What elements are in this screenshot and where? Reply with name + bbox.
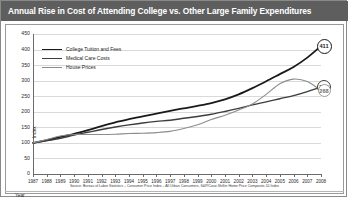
x-tick xyxy=(60,174,61,177)
y-tick-label: 0 xyxy=(27,171,30,176)
y-axis-label: Index xyxy=(32,126,37,138)
y-tick-label: 300 xyxy=(21,78,30,83)
x-tick xyxy=(184,174,185,177)
x-tick xyxy=(321,174,322,177)
x-tick xyxy=(294,174,295,177)
x-tick xyxy=(102,174,103,177)
x-tick xyxy=(156,174,157,177)
x-tick xyxy=(211,174,212,177)
y-tick-label: 50 xyxy=(24,156,30,161)
x-tick xyxy=(74,174,75,177)
legend-label: House Prices xyxy=(66,64,96,70)
legend-label: Medical Care Costs xyxy=(66,55,110,61)
x-tick xyxy=(115,174,116,177)
footer-divider xyxy=(5,191,344,192)
y-axis-ticks: 050100150200250300350400450 xyxy=(8,34,30,174)
x-tick xyxy=(33,174,34,177)
y-tick-label: 200 xyxy=(21,109,30,114)
x-tick xyxy=(252,174,253,177)
y-tick-label: 450 xyxy=(21,31,30,36)
y-tick-label: 250 xyxy=(21,94,30,99)
chart-title-bar: Annual Rise in Cost of Attending College… xyxy=(1,1,348,21)
legend-label: College Tuition and Fees xyxy=(66,46,121,52)
legend-swatch xyxy=(42,67,62,68)
x-tick xyxy=(88,174,89,177)
x-tick xyxy=(266,174,267,177)
x-tick xyxy=(239,174,240,177)
x-tick xyxy=(225,174,226,177)
x-tick xyxy=(129,174,130,177)
legend-swatch xyxy=(42,58,62,59)
x-tick xyxy=(143,174,144,177)
endpoint-value-housing: 268 xyxy=(318,84,331,97)
x-tick xyxy=(47,174,48,177)
x-tick xyxy=(307,174,308,177)
y-tick-label: 400 xyxy=(21,47,30,52)
chart-panel: 050100150200250300350400450 198719881989… xyxy=(5,24,344,194)
x-tick xyxy=(280,174,281,177)
source-note: Source: Bureau of Labor Statistics – Con… xyxy=(1,184,348,188)
y-tick-label: 100 xyxy=(21,140,30,145)
endpoint-value-tuition: 411 xyxy=(317,39,332,54)
x-tick xyxy=(198,174,199,177)
page-title: Annual Rise in Cost of Attending College… xyxy=(1,6,311,16)
y-tick-label: 150 xyxy=(21,125,30,130)
x-axis-label: Year xyxy=(15,193,25,198)
legend-item: Medical Care Costs xyxy=(42,54,172,62)
x-axis-line xyxy=(33,174,321,175)
legend-item: College Tuition and Fees xyxy=(42,45,172,53)
y-tick-label: 350 xyxy=(21,63,30,68)
legend-swatch xyxy=(42,49,62,50)
chart-legend: College Tuition and FeesMedical Care Cos… xyxy=(42,45,172,72)
x-tick xyxy=(170,174,171,177)
legend-item: House Prices xyxy=(42,63,172,71)
